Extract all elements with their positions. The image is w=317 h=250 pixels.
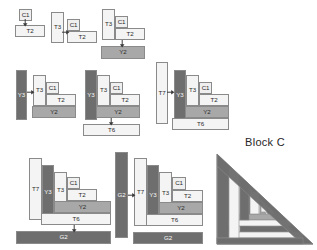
piece-t2: T2 xyxy=(15,25,45,37)
piece-y3: Y3 xyxy=(42,165,54,220)
assembly-arrow xyxy=(108,118,115,126)
piece-y2: Y2 xyxy=(32,106,76,118)
piece-y2: Y2 xyxy=(159,202,203,214)
piece-t2: T2 xyxy=(67,189,97,201)
piece-c1: C1 xyxy=(199,82,212,94)
piece-y3: Y3 xyxy=(16,70,27,120)
assembly-arrow xyxy=(167,89,175,96)
piece-g2-bottom: G2 xyxy=(133,232,203,244)
page-title: Block C xyxy=(245,136,285,148)
piece-t6: T6 xyxy=(146,214,203,226)
piece-c1: C1 xyxy=(172,177,186,190)
piece-c1: C1 xyxy=(46,82,59,94)
piece-t3: T3 xyxy=(97,75,110,106)
assembly-arrow xyxy=(71,225,78,233)
piece-y2: Y2 xyxy=(54,201,111,213)
piece-t2: T2 xyxy=(67,31,97,43)
assembly-arrow xyxy=(128,192,136,199)
piece-t3: T3 xyxy=(186,75,199,106)
piece-g2-side: G2 xyxy=(115,152,128,238)
assembly-arrow xyxy=(62,29,70,36)
piece-y2: Y2 xyxy=(185,106,229,118)
piece-c1: C1 xyxy=(67,177,80,189)
piece-c1: C1 xyxy=(110,82,123,94)
block-c-assembly-diagram: C1 T2 T3 C1 T2 T3 C1 T2 Y2 Y3 T3 C1 T2 Y… xyxy=(0,0,317,250)
piece-t7: T7 xyxy=(29,158,42,220)
piece-t3: T3 xyxy=(102,9,115,40)
piece-t2: T2 xyxy=(46,94,76,106)
piece-t3: T3 xyxy=(51,12,64,43)
finished-block-triangle xyxy=(216,152,317,246)
piece-g2: G2 xyxy=(16,231,111,244)
piece-t2: T2 xyxy=(199,94,229,106)
piece-t2: T2 xyxy=(172,190,203,202)
piece-t2: T2 xyxy=(115,28,145,40)
piece-t6: T6 xyxy=(172,118,229,130)
assembly-arrow xyxy=(119,40,126,48)
piece-t6: T6 xyxy=(41,213,111,225)
piece-c1: C1 xyxy=(115,16,128,28)
piece-t2: T2 xyxy=(110,94,140,106)
assembly-arrow xyxy=(22,19,29,27)
piece-y2: Y2 xyxy=(96,106,140,118)
assembly-arrow xyxy=(27,89,35,96)
